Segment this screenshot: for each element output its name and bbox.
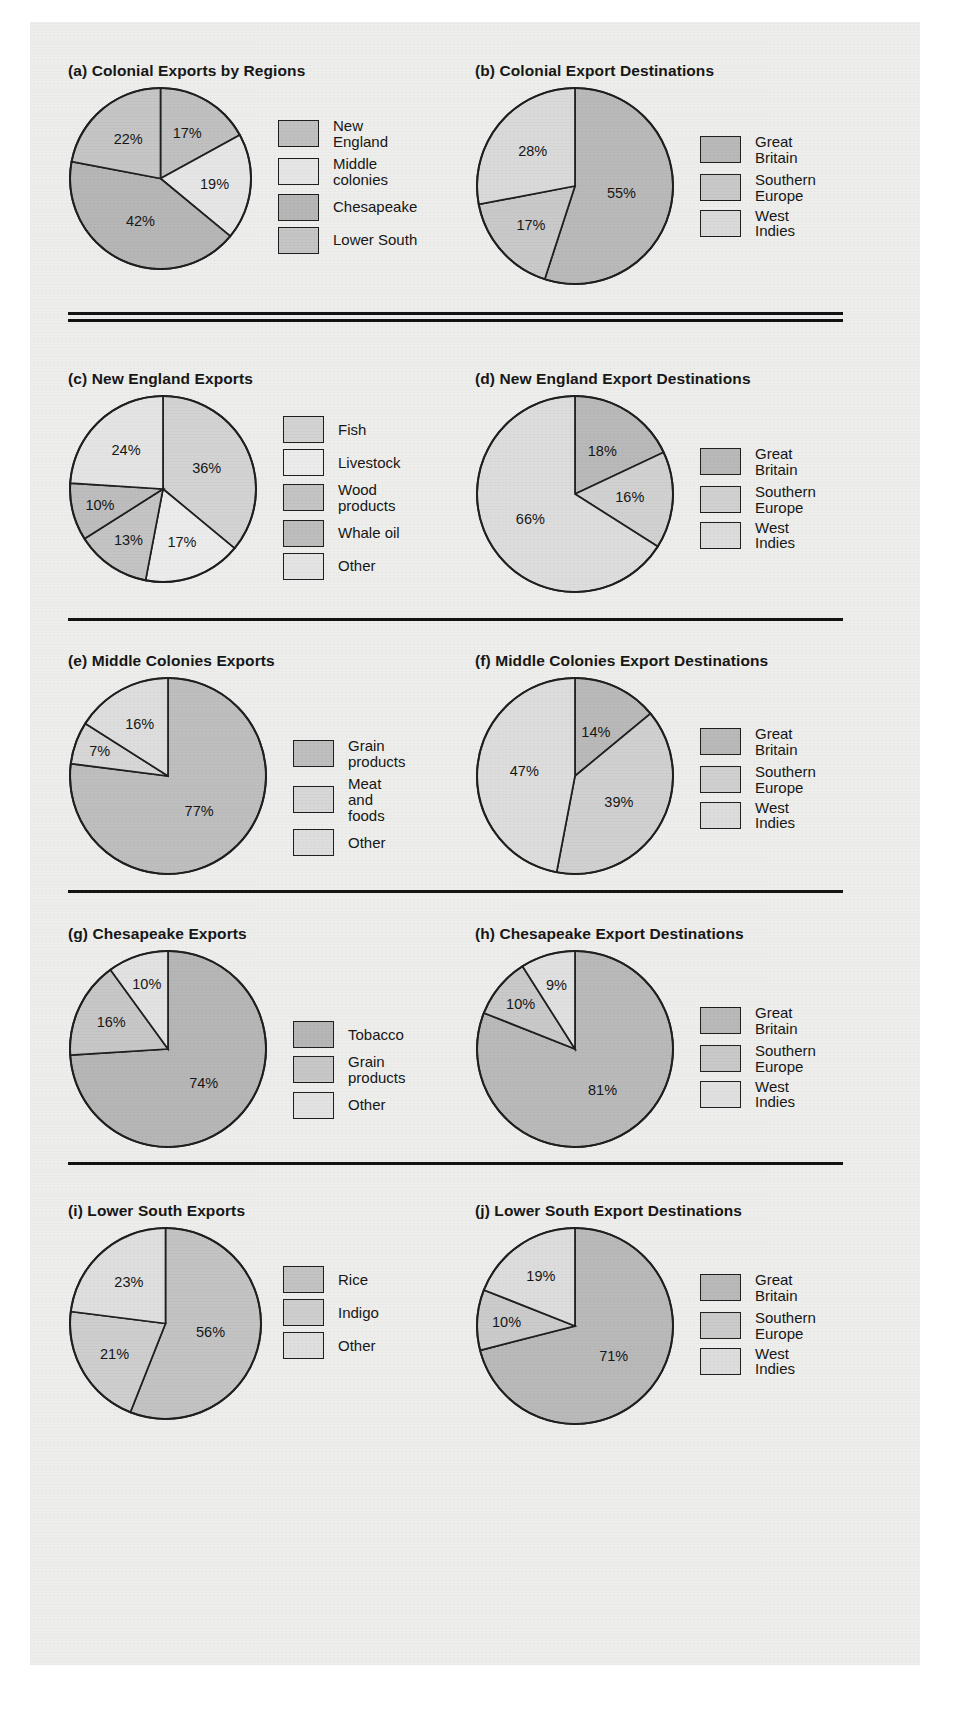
pie-value-label: 47% [510,763,539,779]
legend-label: Middle colonies [333,156,417,188]
legend-label: West Indies [755,520,816,552]
legend-swatch-icon [283,520,324,547]
legend-swatch-icon [700,1081,741,1108]
legend-swatch-icon [283,449,324,476]
legend-item[interactable]: West Indies [700,208,816,240]
legend-swatch-icon [700,174,741,201]
legend-item[interactable]: Livestock [283,449,401,476]
legend-item[interactable]: Grain products [293,738,406,770]
legend-item[interactable]: Great Britain [700,134,816,166]
chart-body-j: 71%10%19%Great BritainSouthern EuropeWes… [475,1226,742,1426]
legend-label: Whale oil [338,525,400,541]
legend-item[interactable]: Southern Europe [700,172,816,204]
pie-value-label: 19% [526,1268,555,1284]
pie-value-label: 17% [167,534,196,550]
legend-item[interactable]: Great Britain [700,1272,816,1304]
chart-legend-b: Great BritainSouthern EuropeWest Indies [700,134,816,245]
legend-label: Grain products [348,738,406,770]
legend-swatch-icon [283,553,324,580]
separator-3 [68,890,843,893]
pie-h [475,949,675,1149]
chart-title-g: (g) Chesapeake Exports [68,925,247,943]
legend-label: Great Britain [755,1005,816,1037]
pie-value-label: 55% [607,185,636,201]
legend-swatch-icon [278,120,319,147]
chart-title-e: (e) Middle Colonies Exports [68,652,275,670]
legend-swatch-icon [293,740,334,767]
legend-item[interactable]: Other [293,829,406,856]
pie-b [475,86,675,286]
chart-body-h: 81%10%9%Great BritainSouthern EuropeWest… [475,949,744,1149]
legend-item[interactable]: Southern Europe [700,764,816,796]
legend-item[interactable]: Southern Europe [700,1043,816,1075]
legend-label: Great Britain [755,446,816,478]
legend-item[interactable]: Tobacco [293,1021,406,1048]
legend-swatch-icon [278,227,319,254]
pie-value-label: 10% [85,497,114,513]
legend-item[interactable]: West Indies [700,1346,816,1378]
legend-item[interactable]: Great Britain [700,1005,816,1037]
legend-item[interactable]: Meat and foods [293,776,406,824]
legend-item[interactable]: West Indies [700,1079,816,1111]
legend-item[interactable]: Other [293,1092,406,1119]
legend-item[interactable]: Lower South [278,227,417,254]
pie-i [68,1226,263,1421]
legend-item[interactable]: Grain products [293,1054,406,1086]
legend-item[interactable]: West Indies [700,520,816,552]
chart-panel-a: (a) Colonial Exports by Regions17%19%42%… [68,62,305,271]
legend-item[interactable]: Chesapeake [278,194,417,221]
legend-item[interactable]: Wood products [283,482,401,514]
legend-item[interactable]: New England [278,118,417,150]
chart-body-d: 18%16%66%Great BritainSouthern EuropeWes… [475,394,751,594]
legend-label: Other [338,558,376,574]
pie-value-label: 39% [604,794,633,810]
legend-item[interactable]: Indigo [283,1299,379,1326]
legend-swatch-icon [700,1348,741,1375]
legend-label: Southern Europe [755,172,816,204]
pie-c [68,394,258,584]
legend-item[interactable]: Southern Europe [700,484,816,516]
chart-panel-i: (i) Lower South Exports56%21%23%RiceIndi… [68,1202,245,1421]
legend-swatch-icon [700,522,741,549]
legend-label: Tobacco [348,1027,404,1043]
chart-title-c: (c) New England Exports [68,370,253,388]
pie-f [475,676,675,876]
chart-body-e: 77%7%16%Grain productsMeat and foodsOthe… [68,676,275,876]
chart-body-b: 55%17%28%Great BritainSouthern EuropeWes… [475,86,714,286]
legend-label: Other [348,1097,386,1113]
legend-item[interactable]: Southern Europe [700,1310,816,1342]
chart-title-i: (i) Lower South Exports [68,1202,245,1220]
separator-double-1 [68,312,843,322]
pie-value-label: 13% [114,532,143,548]
pie-value-label: 28% [518,143,547,159]
legend-swatch-icon [700,210,741,237]
chart-panel-f: (f) Middle Colonies Export Destinations1… [475,652,768,876]
legend-item[interactable]: Great Britain [700,726,816,758]
legend-swatch-icon [700,802,741,829]
legend-item[interactable]: West Indies [700,800,816,832]
pie-value-label: 10% [132,976,161,992]
legend-item[interactable]: Whale oil [283,520,401,547]
chart-body-g: 74%16%10%TobaccoGrain productsOther [68,949,247,1149]
legend-label: Great Britain [755,1272,816,1304]
legend-swatch-icon [293,1056,334,1083]
legend-item[interactable]: Other [283,553,401,580]
pie-value-label: 9% [546,977,567,993]
legend-item[interactable]: Other [283,1332,379,1359]
legend-swatch-icon [283,484,324,511]
chart-legend-i: RiceIndigoOther [283,1266,379,1365]
chart-title-j: (j) Lower South Export Destinations [475,1202,742,1220]
chart-legend-c: FishLivestockWood productsWhale oilOther [283,416,401,586]
legend-item[interactable]: Great Britain [700,446,816,478]
legend-label: Other [348,835,386,851]
legend-item[interactable]: Rice [283,1266,379,1293]
legend-item[interactable]: Fish [283,416,401,443]
pie-value-label: 71% [599,1348,628,1364]
legend-item[interactable]: Middle colonies [278,156,417,188]
pie-value-label: 19% [200,176,229,192]
legend-label: West Indies [755,800,816,832]
legend-label: West Indies [755,1079,816,1111]
pie-value-label: 10% [506,996,535,1012]
legend-swatch-icon [700,486,741,513]
legend-swatch-icon [278,194,319,221]
